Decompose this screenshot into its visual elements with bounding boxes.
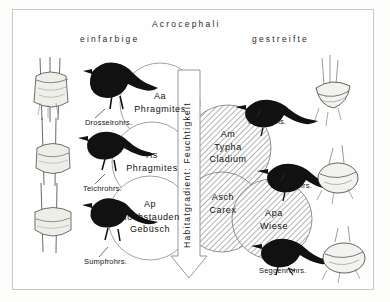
label-as-phragmites: As Phragmites	[112, 149, 192, 174]
circle-code-as: As	[112, 149, 192, 162]
circle-habitat-as: Phragmites	[112, 162, 192, 175]
nest-illustration-2	[36, 118, 70, 186]
circle-code-am: Am	[196, 128, 260, 141]
circle-habitat-am-2: Cladium	[196, 153, 260, 166]
species-label-schilfrohrsaenger: Schilfrohrs.	[272, 181, 312, 190]
species-label-mariskensaenger: Mariskens.	[248, 117, 286, 126]
circle-habitat-ap-1: Hochstauden	[106, 211, 194, 224]
circle-code-apa: Apa	[248, 207, 300, 220]
label-asch-carex: Asch Carex	[196, 191, 250, 216]
circle-code-asch: Asch	[196, 191, 250, 204]
circle-habitat-apa: Wiese	[248, 220, 300, 233]
nest-illustration-6	[322, 226, 365, 283]
nest-illustration-1	[34, 57, 68, 122]
label-ap-hochstauden-gebuesch: Ap Hochstauden Gebüsch	[106, 198, 194, 236]
right-nest-illustrations	[315, 55, 365, 283]
species-label-seggenrohrsaenger: Seggenrohrs.	[259, 266, 306, 275]
left-nest-illustrations	[34, 57, 71, 253]
species-label-drosselrohrsaenger: Drosselrohrs.	[85, 118, 132, 127]
nest-illustration-5	[317, 145, 358, 204]
gradient-axis-label: Habitatgradient: Feuchtigkeit	[182, 80, 196, 248]
acrocephalus-habitat-figure: Acrocephali einfarbige gestreifte	[0, 0, 390, 302]
nest-illustration-3	[35, 183, 71, 253]
species-label-sumpfrohrsaenger: Sumpfrohrs.	[84, 257, 127, 266]
circle-habitat-am-1: Typha	[196, 141, 260, 154]
label-am-typha-cladium: Am Typha Cladium	[196, 128, 260, 166]
circle-habitat-asch: Carex	[196, 204, 250, 217]
species-label-teichrohrsaenger: Teichrohrs.	[83, 184, 122, 193]
label-apa-wiese: Apa Wiese	[248, 207, 300, 232]
circle-habitat-ap-2: Gebüsch	[106, 223, 194, 236]
circle-code-ap: Ap	[106, 198, 194, 211]
nest-illustration-4	[315, 55, 350, 126]
